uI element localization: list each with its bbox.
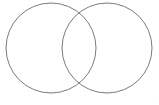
- venn-circle-left: [6, 3, 96, 93]
- venn-circle-right: [62, 3, 152, 93]
- venn-diagram: [0, 0, 159, 105]
- watermark: · ·: [152, 99, 155, 103]
